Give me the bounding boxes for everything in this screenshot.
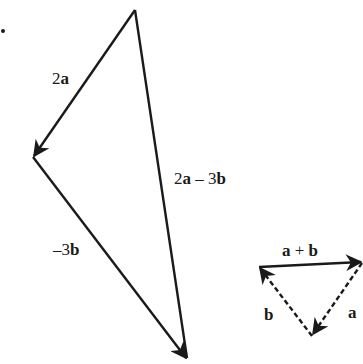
label-a: a (348, 303, 357, 322)
label-a-plus-b: a + b (282, 241, 318, 260)
vector-a-plus-b (259, 262, 361, 267)
label-neg-3b: –3b (52, 240, 79, 259)
marker-dot (1, 29, 5, 33)
vector-a-dashed (313, 263, 362, 334)
label-2a: 2a (52, 69, 70, 88)
label-2a-minus-3b: 2a – 3b (174, 169, 226, 188)
vector-b-dashed (260, 268, 312, 336)
vector-diagram: 2a 2a – 3b –3b a + b a b (0, 0, 363, 364)
label-b: b (264, 305, 273, 324)
vector-2a (34, 10, 135, 156)
